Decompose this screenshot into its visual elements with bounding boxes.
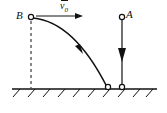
point-b-label: B [16, 10, 23, 21]
point-a-marker [119, 14, 124, 19]
velocity-subscript: 0 [64, 6, 68, 14]
fall-direction-arrowhead [118, 48, 126, 62]
velocity-arrow-head [75, 13, 83, 19]
trajectory-curve [33, 18, 107, 87]
diagram-canvas [0, 0, 167, 113]
projectile-motion-diagram: B A v0 [0, 0, 167, 113]
trajectory-landing-marker [105, 84, 110, 89]
fall-landing-marker [119, 84, 124, 89]
trajectory-direction-arrowhead [75, 44, 83, 54]
point-a-label: A [126, 9, 133, 20]
velocity-vector-bar [61, 0, 68, 1]
ground-hatching [13, 89, 153, 97]
velocity-label: v0 [60, 1, 68, 14]
point-b-marker [28, 14, 33, 19]
